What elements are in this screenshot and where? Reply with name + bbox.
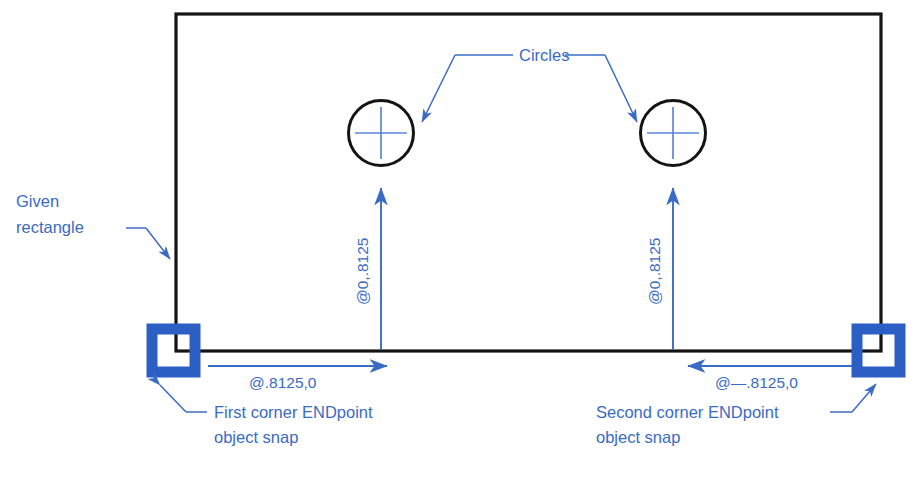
circle-right xyxy=(641,101,706,166)
second-corner-leader xyxy=(830,384,876,412)
circles-label: Circles xyxy=(519,46,569,64)
cad-drawing: Circles Given rectangle @0,.8125 @0,.812… xyxy=(0,0,919,485)
given-rectangle-leader-arrow xyxy=(146,228,170,259)
given-rectangle-leader xyxy=(126,228,170,259)
circles-leader-arrow-right xyxy=(605,55,637,122)
first-corner-label-line2: object snap xyxy=(214,428,298,446)
given-rectangle xyxy=(176,14,881,351)
circle-left xyxy=(349,101,414,166)
second-corner-leader-arrow xyxy=(852,384,876,412)
first-corner-leader-arrow xyxy=(160,385,186,412)
dimension-horizontal-right: @—.8125,0 xyxy=(688,366,860,391)
dimension-vertical-left: @0,.8125 xyxy=(354,188,381,350)
circles-leader-arrow-left xyxy=(422,55,455,122)
second-corner-label-line2: object snap xyxy=(596,428,680,446)
rectangle-outline xyxy=(176,14,881,351)
first-corner-leader xyxy=(160,385,207,412)
dimension-horizontal-left-label: @.8125,0 xyxy=(249,374,317,391)
dimension-vertical-right: @0,.8125 xyxy=(646,188,673,350)
first-corner-label-line1: First corner ENDpoint xyxy=(214,403,373,421)
given-rectangle-label-line1: Given xyxy=(16,192,59,210)
dimension-horizontal-left: @.8125,0 xyxy=(208,366,387,391)
given-rectangle-label-line2: rectangle xyxy=(16,218,84,236)
dimension-vertical-right-label: @0,.8125 xyxy=(646,238,663,305)
circles-leader-group xyxy=(422,55,637,122)
dimension-horizontal-right-label: @—.8125,0 xyxy=(715,374,798,391)
dimension-vertical-left-label: @0,.8125 xyxy=(354,238,371,305)
diagram-canvas: Circles Given rectangle @0,.8125 @0,.812… xyxy=(0,0,919,485)
second-corner-label-line1: Second corner ENDpoint xyxy=(596,403,779,421)
